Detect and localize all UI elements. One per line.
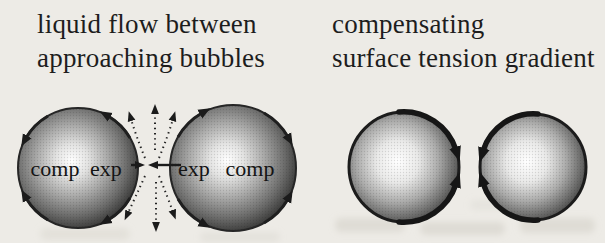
bubble-label-comp: comp	[226, 156, 275, 181]
tension-gradient-group	[349, 112, 586, 222]
diagram-canvas: comp exp exp comp	[0, 0, 605, 243]
approaching-bubbles-group: comp exp exp comp	[18, 105, 296, 231]
bubble-label-exp: exp	[178, 156, 210, 181]
figure: liquid flow between approaching bubbles …	[0, 0, 605, 243]
bubble-label-comp: comp	[31, 156, 80, 181]
liquid-outflow-arrow	[159, 119, 173, 158]
bubble-label-exp: exp	[90, 156, 122, 181]
